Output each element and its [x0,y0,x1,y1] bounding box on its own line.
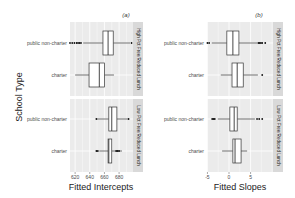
panel-a-facet-low-bg [70,99,133,172]
panel-b-strip-low-label: Low Pct Free/Reduced Lunch [276,105,281,166]
panel-a-x-ticks: 620640660680 [71,172,124,180]
panel-b-tag: (b) [255,12,262,18]
panel-a-tag: (a) [122,12,129,18]
x-tick-label: 5 [249,174,252,180]
panel-a-strip-high-label: High Pct Free/Reduced Lunch [136,28,141,90]
y-axis-title: School Type [14,72,24,121]
boxplot-figure: School Type (a) High Pct Free/Reduced Lu… [0,0,295,198]
panel-a-strip-low-label: Low Pct Free/Reduced Lunch [136,105,141,166]
x-tick-label: 660 [100,174,109,180]
panel-b-x-ticks: -505 [205,172,252,180]
x-tick-label: 0 [228,174,231,180]
panel-a-ylabel-public-high: public non-charter [27,40,67,46]
panel-b-ylabel-charter-high: charter [188,72,204,78]
panel-a-x-axis-title: Fitted Intercepts [69,182,134,192]
panel-b-ylabel-public-low: public non-charter [164,116,204,122]
panel-a-ylabel-charter-high: charter [51,72,67,78]
x-tick-label: 640 [86,174,95,180]
x-tick-label: -5 [205,174,210,180]
x-tick-label: 620 [71,174,80,180]
panel-b-ylabel-public-high: public non-charter [164,40,204,46]
panel-a-ylabel-public-low: public non-charter [27,116,67,122]
panel-a-ylabel-charter-low: charter [51,148,67,154]
x-tick-label: 680 [115,174,124,180]
panel-b-strip-high-label: High Pct Free/Reduced Lunch [276,28,281,90]
panel-a: (a) High Pct Free/Reduced Lunch Low Pct … [27,12,143,192]
panel-b-ylabel-charter-low: charter [188,148,204,154]
panel-b-x-axis-title: Fitted Slopes [214,182,267,192]
panel-b: (b) High Pct Free/Reduced Lunch Low Pct … [164,12,283,192]
